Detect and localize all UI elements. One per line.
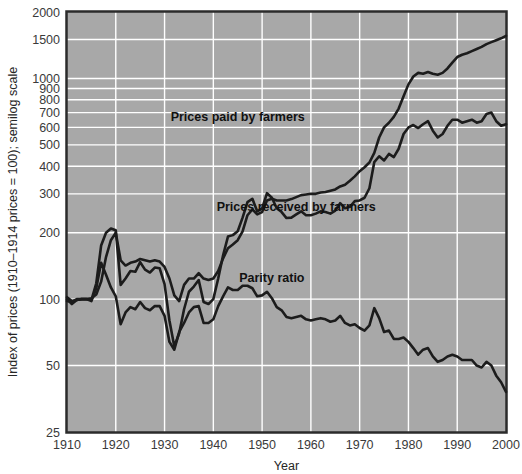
x-tick-label: 1940 — [199, 438, 227, 452]
x-tick-label: 1910 — [53, 438, 81, 452]
y-tick-label: 400 — [39, 160, 60, 174]
x-tick-label: 1930 — [151, 438, 179, 452]
y-axis-title: Index of prices (1910–1914 prices = 100)… — [6, 67, 20, 377]
series-annotation: Prices paid by farmers — [171, 110, 305, 124]
x-tick-label: 1980 — [395, 438, 423, 452]
y-tick-label: 1000 — [32, 72, 60, 86]
x-tick-label: 1990 — [443, 438, 471, 452]
series-annotation: Prices received by farmers — [217, 200, 376, 214]
y-tick-label: 700 — [39, 106, 60, 120]
y-tick-label: 100 — [39, 293, 60, 307]
price-index-chart: 2550100200300400500600700800900100015002… — [0, 0, 522, 474]
x-tick-label: 2000 — [492, 438, 520, 452]
y-tick-label: 2000 — [32, 6, 60, 20]
y-tick-label: 600 — [39, 121, 60, 135]
chart-container: 2550100200300400500600700800900100015002… — [0, 0, 522, 474]
x-tick-label: 1970 — [346, 438, 374, 452]
y-tick-label: 1500 — [32, 33, 60, 47]
y-tick-label: 300 — [39, 187, 60, 201]
x-tick-label: 1960 — [297, 438, 325, 452]
y-tick-label: 50 — [46, 359, 60, 373]
x-tick-label: 1950 — [248, 438, 276, 452]
x-axis-title: Year — [274, 459, 299, 473]
y-tick-label: 500 — [39, 138, 60, 152]
x-tick-label: 1920 — [102, 438, 130, 452]
series-annotation: Parity ratio — [239, 271, 305, 285]
y-tick-label: 200 — [39, 226, 60, 240]
